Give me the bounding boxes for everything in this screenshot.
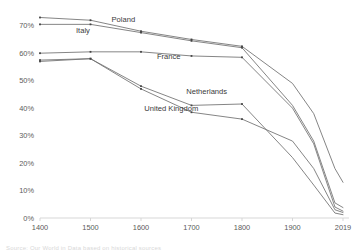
data-point-marker [90,51,92,53]
data-point-marker [241,56,243,58]
y-axis-tick-label: 40% [19,104,34,113]
x-axis-tick-label: 2019 [335,223,351,232]
data-point-marker [241,47,243,49]
series-label-netherlands: Netherlands [186,87,227,96]
series-label-united-kingdom: United Kingdom [144,104,198,113]
data-point-marker [39,23,41,25]
y-axis-tick-label: 0% [23,214,34,223]
data-point-marker [191,40,193,42]
x-axis-tick-label: 1900 [284,223,300,232]
x-axis-tick-label: 1600 [133,223,149,232]
data-point-marker [140,32,142,34]
data-point-marker [39,17,41,19]
data-point-marker [90,19,92,21]
series-line-france [40,52,343,211]
series-label-poland: Poland [111,15,135,24]
line-chart: 0%10%20%30%40%50%60%70%14001500160017001… [0,0,354,251]
data-point-marker [90,58,92,60]
y-axis-tick-label: 60% [19,49,34,58]
x-axis-tick-label: 1800 [234,223,250,232]
data-point-marker [140,51,142,53]
y-axis-tick-label: 70% [19,21,34,30]
x-axis-tick-label: 1400 [32,223,48,232]
series-line-united-kingdom [40,59,343,215]
series-line-poland [40,17,343,182]
chart-canvas: 0%10%20%30%40%50%60%70%14001500160017001… [0,0,354,251]
series-label-france: France [157,52,181,61]
y-axis-tick-label: 10% [19,186,34,195]
data-point-marker [241,118,243,120]
y-axis-tick-label: 50% [19,76,34,85]
y-axis-tick-label: 20% [19,159,34,168]
y-axis-tick-label: 30% [19,131,34,140]
series-line-netherlands [40,59,343,213]
x-axis-tick-label: 1700 [183,223,199,232]
data-point-marker [140,85,142,87]
data-point-marker [140,88,142,90]
data-point-marker [191,55,193,57]
data-point-marker [39,59,41,61]
data-point-marker [39,52,41,54]
x-axis-tick-label: 1500 [82,223,98,232]
chart-caption: Source: Our World in Data based on histo… [6,245,161,251]
series-label-italy: Italy [76,26,90,35]
data-point-marker [241,103,243,105]
